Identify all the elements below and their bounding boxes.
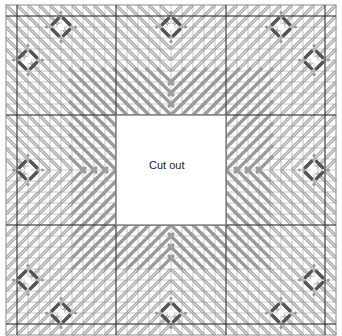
ring-accent [312,264,315,267]
ring-accent [59,11,62,14]
ring-accent [265,311,268,314]
ring-center [58,310,64,316]
ring-center [311,167,317,173]
ring-accent [312,73,315,76]
ring-accent [26,264,29,267]
ring-accent [327,168,330,171]
ring-center [25,57,31,63]
ring-accent [26,293,29,296]
ring-center [278,24,284,30]
ring-accent [74,25,77,28]
ring-accent [41,58,44,61]
ring-center [168,24,174,30]
ring-accent [265,25,268,28]
ring-center [311,277,317,283]
ring-accent [312,293,315,296]
ring-accent [169,297,172,300]
ring-accent [169,326,172,329]
ring-accent [12,278,15,281]
ring-accent [41,168,44,171]
ring-accent [59,297,62,300]
ring-center [278,310,284,316]
ring-accent [294,25,297,28]
ring-accent [184,25,187,28]
ring-center [25,167,31,173]
ring-accent [26,154,29,157]
ring-accent [327,278,330,281]
ring-accent [312,154,315,157]
ring-accent [312,44,315,47]
ring-accent [279,297,282,300]
ring-center [25,277,31,283]
ring-accent [26,44,29,47]
ring-accent [45,25,48,28]
ring-accent [155,25,158,28]
ring-accent [298,278,301,281]
ring-center [58,24,64,30]
ring-accent [184,311,187,314]
ring-accent [298,58,301,61]
ring-accent [298,168,301,171]
ring-accent [169,11,172,14]
ring-accent [294,311,297,314]
ring-accent [74,311,77,314]
ring-accent [59,40,62,43]
ring-accent [45,311,48,314]
ring-accent [41,278,44,281]
ring-accent [155,311,158,314]
ring-accent [327,58,330,61]
ring-accent [26,73,29,76]
ring-accent [312,183,315,186]
cutout-label: Cut out [149,159,184,171]
ring-accent [26,183,29,186]
ring-accent [279,40,282,43]
ring-accent [12,168,15,171]
ring-accent [279,326,282,329]
ring-accent [279,11,282,14]
ring-accent [59,326,62,329]
ring-center [311,57,317,63]
ring-accent [169,40,172,43]
ring-accent [12,58,15,61]
ring-center [168,310,174,316]
